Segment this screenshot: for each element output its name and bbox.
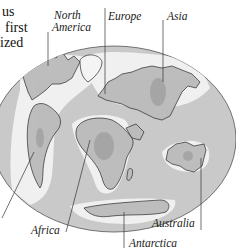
label-africa: Africa (31, 224, 60, 236)
label-antarctica: Antarctica (129, 237, 177, 248)
label-north-america: North America (52, 9, 91, 33)
label-asia: Asia (167, 10, 187, 22)
label-europe: Europe (108, 10, 141, 22)
label-australia: Australia (152, 217, 195, 229)
label-north-america-line2: America (52, 21, 91, 33)
world-map (0, 0, 236, 248)
label-north-america-line1: North (52, 9, 91, 21)
